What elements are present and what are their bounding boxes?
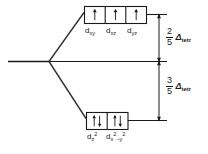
- upper-split-fraction: 2 5: [166, 27, 173, 47]
- electron-arrow-up-xz: [114, 9, 118, 20]
- orbital-label-dxy-sub: xy: [89, 30, 95, 36]
- orbital-label-dxy: dxy: [85, 26, 95, 35]
- orbital-label-dz2: dz2: [87, 132, 97, 141]
- orbital-label-dz2-sup: 2: [94, 131, 97, 137]
- lower-split-measure-arrow: [157, 61, 161, 122]
- orbital-label-dxz-sub: xz: [110, 30, 116, 36]
- lower-split-annotation: 3 5 Δtetr: [166, 76, 191, 96]
- electron-pair-z2: [93, 115, 102, 127]
- lower-split-delta-subscript: tetr: [182, 86, 191, 92]
- orbital-label-dyz-sub: yz: [131, 30, 137, 36]
- upper-split-delta-term: Δtetr: [176, 32, 191, 42]
- orbital-label-dxz: dxz: [106, 26, 116, 35]
- lower-orbital-box-group: [87, 113, 129, 130]
- orbital-label-dx2y2-sup2: 2: [122, 131, 125, 137]
- lower-split-fraction: 3 5: [166, 76, 173, 96]
- crystal-field-splitting-diagram: dxy dxz dyz dz2 dx2–y2 2 5 Δtetr 3 5 Δte…: [0, 0, 208, 154]
- lower-split-delta-term: Δtetr: [176, 81, 191, 91]
- upper-orbital-box-group: [85, 7, 147, 24]
- upper-split-delta-subscript: tetr: [182, 37, 191, 43]
- upper-split-delta-symbol: Δ: [176, 32, 182, 42]
- orbital-label-dx2y2: dx2–y2: [106, 132, 125, 141]
- electron-arrow-up-xy: [93, 9, 97, 20]
- lower-split-denominator: 5: [166, 87, 173, 97]
- upper-split-annotation: 2 5 Δtetr: [166, 27, 191, 47]
- orbital-label-dyz: dyz: [127, 26, 137, 35]
- correlation-line-upper: [49, 13, 84, 62]
- lower-split-delta-symbol: Δ: [176, 81, 182, 91]
- upper-split-measure-arrow: [157, 14, 161, 63]
- lower-split-numerator: 3: [166, 76, 173, 86]
- electron-arrow-up-yz: [134, 9, 138, 20]
- electron-pair-x2y2: [113, 115, 122, 127]
- correlation-line-lower: [49, 62, 86, 119]
- upper-split-denominator: 5: [166, 38, 173, 48]
- upper-split-numerator: 2: [166, 27, 173, 37]
